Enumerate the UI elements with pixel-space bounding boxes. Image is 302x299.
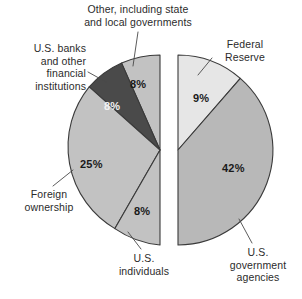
value-label-us-individuals: 8% [134, 205, 150, 217]
leader-line-foreign [53, 170, 73, 186]
label-us-individuals: U.S. individuals [105, 252, 183, 277]
value-label-other-including-state-and-local-governments: 8% [130, 78, 146, 90]
label-us-banks-and-other-financial-institutions: U.S. banks and other financial instituti… [2, 42, 86, 92]
label-federal-reserve: Federal Reserve [205, 38, 285, 63]
value-label-foreign-ownership: 25% [80, 158, 103, 170]
value-label-us-banks-and-other-financial-institutions: 8% [104, 100, 120, 112]
clipped-bottom-caption [0, 290, 302, 299]
value-label-federal-reserve: 9% [193, 92, 209, 104]
label-us-government-agencies: U.S. government agencies [216, 246, 300, 284]
pie-chart-figure: Other, including state and local governm… [0, 0, 302, 299]
value-label-us-government-agencies: 42% [222, 162, 245, 174]
leader-line-agencies [239, 219, 252, 243]
label-foreign-ownership: Foreign ownership [6, 188, 92, 213]
label-other-including-state-and-local-governments: Other, including state and local governm… [63, 3, 213, 28]
